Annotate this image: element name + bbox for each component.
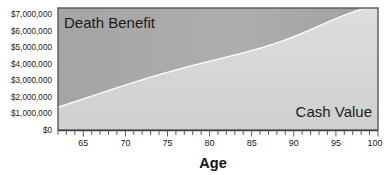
x-tick-label: 85: [247, 138, 257, 148]
x-tick-label: 95: [331, 138, 341, 148]
x-tick-label: 80: [205, 138, 215, 148]
x-tick-label: 65: [78, 138, 88, 148]
death-benefit-label: Death Benefit: [64, 14, 156, 31]
y-tick-label: $6,000,000: [11, 27, 52, 36]
x-axis-minor-ticks: [58, 131, 378, 137]
x-axis-title: Age: [199, 155, 226, 171]
cash-value-label: Cash Value: [296, 103, 372, 120]
y-tick-label: $7,000,000: [11, 10, 52, 19]
y-tick-label: $2,000,000: [11, 93, 52, 102]
x-tick-label: 100: [367, 138, 382, 148]
y-tick-label: $1,000,000: [11, 109, 52, 118]
x-tick-label: 90: [289, 138, 299, 148]
x-tick-label: 70: [120, 138, 130, 148]
chart-container: $7,000,000 $6,000,000 $5,000,000 $4,000,…: [0, 0, 387, 175]
y-tick-label: $0: [43, 126, 53, 135]
y-tick-label: $3,000,000: [11, 76, 52, 85]
y-tick-label: $4,000,000: [11, 60, 52, 69]
x-tick-label: 75: [162, 138, 172, 148]
area-chart: $7,000,000 $6,000,000 $5,000,000 $4,000,…: [0, 0, 387, 175]
y-tick-label: $5,000,000: [11, 43, 52, 52]
